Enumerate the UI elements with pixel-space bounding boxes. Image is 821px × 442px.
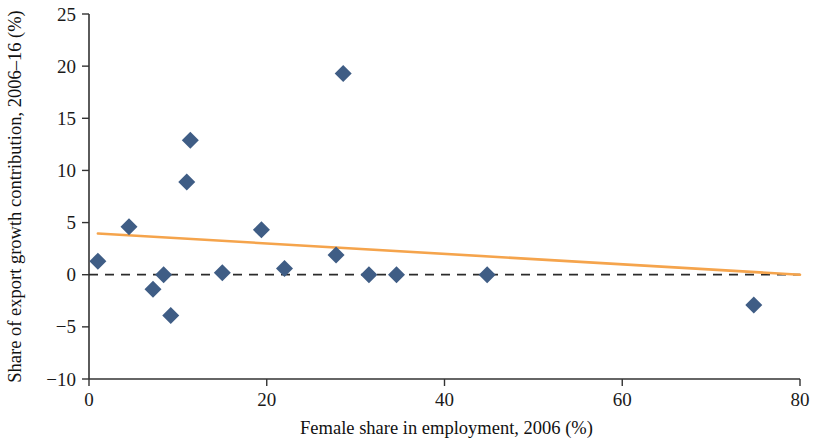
data-point-marker	[214, 264, 231, 281]
data-point-marker	[335, 65, 352, 82]
y-tick-label: −5	[56, 316, 76, 337]
y-axis-ticks	[82, 14, 89, 379]
data-point-marker	[182, 132, 199, 149]
x-axis-ticks	[89, 379, 800, 386]
data-point-marker	[89, 253, 106, 270]
x-tick-label: 40	[435, 389, 454, 410]
data-point-marker	[178, 173, 195, 190]
data-point-marker	[144, 281, 161, 298]
y-axis-tick-labels: −10−50510152025	[46, 4, 76, 390]
y-axis-title: Share of export growth contribution, 200…	[5, 10, 26, 383]
data-point-marker	[360, 266, 377, 283]
data-point-marker	[162, 307, 179, 324]
y-tick-label: 5	[67, 212, 77, 233]
data-point-marker	[388, 266, 405, 283]
y-tick-label: 0	[67, 264, 77, 285]
data-point-marker	[276, 260, 293, 277]
x-tick-label: 0	[84, 389, 94, 410]
x-axis-tick-labels: 020406080	[84, 389, 809, 410]
x-tick-label: 60	[613, 389, 632, 410]
data-point-marker	[253, 221, 270, 238]
y-tick-label: 10	[57, 160, 76, 181]
trend-line	[98, 234, 800, 275]
data-point-marker	[745, 296, 762, 313]
data-point-group	[89, 65, 762, 324]
x-axis-title: Female share in employment, 2006 (%)	[300, 418, 593, 439]
scatter-chart-figure: −10−50510152025 020406080 Female share i…	[0, 0, 821, 442]
x-tick-label: 20	[257, 389, 276, 410]
data-point-marker	[479, 266, 496, 283]
data-point-marker	[120, 218, 137, 235]
y-tick-label: −10	[46, 369, 76, 390]
y-tick-label: 25	[57, 4, 76, 25]
y-tick-label: 20	[57, 56, 76, 77]
data-point-marker	[155, 266, 172, 283]
y-tick-label: 15	[57, 108, 76, 129]
x-tick-label: 80	[791, 389, 810, 410]
chart-canvas: −10−50510152025 020406080 Female share i…	[0, 0, 821, 442]
